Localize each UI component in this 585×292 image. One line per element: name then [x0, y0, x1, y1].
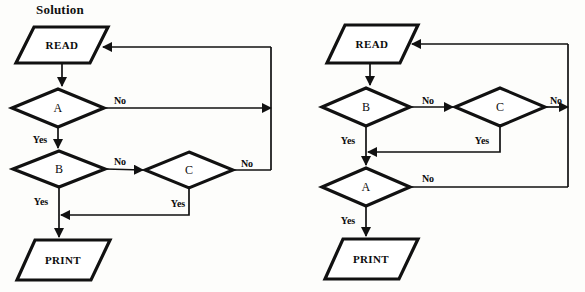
- right-edge-label-a-yes: Yes: [341, 215, 355, 226]
- right-edge-label-b-no: No: [422, 95, 434, 106]
- right-print-label: PRINT: [353, 253, 389, 265]
- left-diamond-c-label: C: [185, 163, 193, 178]
- left-edge-b-no-to-c: [105, 169, 143, 170]
- left-flowchart-shapes: [12, 27, 233, 280]
- right-edge-label-c-no: No: [550, 95, 562, 106]
- left-edge-label-c-no: No: [241, 158, 253, 169]
- right-diamond-a-label: A: [362, 180, 371, 195]
- right-flowchart-edges: [366, 44, 568, 236]
- right-edge-label-b-yes: Yes: [341, 135, 355, 146]
- left-edge-label-b-no: No: [114, 156, 126, 167]
- left-flowchart-edges: [58, 47, 271, 237]
- left-diamond-a-label: A: [54, 101, 63, 116]
- left-edge-label-b-yes: Yes: [34, 196, 48, 207]
- left-edge-label-a-yes: Yes: [33, 134, 47, 145]
- left-read-label: READ: [46, 39, 79, 51]
- right-diamond-c-label: C: [496, 100, 504, 115]
- left-edge-label-c-yes: Yes: [171, 198, 185, 209]
- right-read-label: READ: [356, 38, 389, 50]
- flowchart-canvas: [0, 0, 585, 292]
- left-diamond-b-label: B: [55, 162, 63, 177]
- figure-title: Solution: [36, 2, 84, 18]
- right-edge-label-c-yes: Yes: [475, 135, 489, 146]
- right-edge-label-a-no: No: [422, 173, 434, 184]
- flowchart-figure: Solution READ A B C PRINT No Yes No Yes …: [0, 0, 585, 292]
- left-print-label: PRINT: [45, 254, 81, 266]
- right-diamond-b-label: B: [362, 100, 370, 115]
- left-edge-label-a-no: No: [114, 95, 126, 106]
